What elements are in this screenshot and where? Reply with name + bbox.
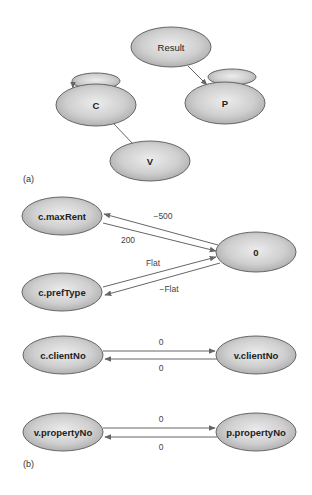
node-c-clientno-label: c.clientNo [40,350,86,361]
edge-label-minusflat: −Flat [159,284,179,294]
edge-label-200: 200 [121,235,135,245]
node-p[interactable]: P [185,82,265,124]
diagram-canvas: Result C P V (a) −500 200 Flat −Flat c.m… [0,0,312,495]
edge-label-vp-bottom: 0 [159,442,164,452]
node-c-preftype[interactable]: c.prefType [22,273,102,311]
node-zero[interactable]: 0 [216,232,296,272]
edge-label-vp-top: 0 [159,414,164,424]
part-b-label: (b) [23,459,34,469]
node-c-clientno[interactable]: c.clientNo [23,336,103,374]
node-v-clientno[interactable]: v.clientNo [216,336,296,374]
edge-label-minus500: −500 [153,211,172,221]
node-c-maxrent[interactable]: c.maxRent [22,197,102,235]
node-p-propertyno[interactable]: p.propertyNo [216,413,296,451]
node-zero-label: 0 [253,247,258,258]
edge-c-v [114,124,133,144]
node-c-label: C [93,100,100,111]
node-v-propertyno-label: v.propertyNo [34,427,93,438]
node-result[interactable]: Result [131,27,211,67]
part-b: −500 200 Flat −Flat c.maxRent 0 c.prefTy… [22,197,296,469]
edge-label-cv-top: 0 [159,337,164,347]
edge-label-cv-bottom: 0 [159,363,164,373]
node-p-label: P [222,98,229,109]
node-c-maxrent-label: c.maxRent [38,211,87,222]
node-v-label: V [147,156,154,167]
part-a-label: (a) [23,174,34,184]
node-c[interactable]: C [56,84,136,126]
node-v[interactable]: V [110,141,190,181]
node-v-clientno-label: v.clientNo [234,350,279,361]
node-result-label: Result [158,42,185,53]
part-a: Result C P V (a) [23,27,265,184]
node-p-propertyno-label: p.propertyNo [226,427,286,438]
node-v-propertyno[interactable]: v.propertyNo [23,413,103,451]
node-c-preftype-label: c.prefType [38,287,85,298]
edge-result-p [188,66,207,85]
edge-label-flat: Flat [146,258,161,268]
